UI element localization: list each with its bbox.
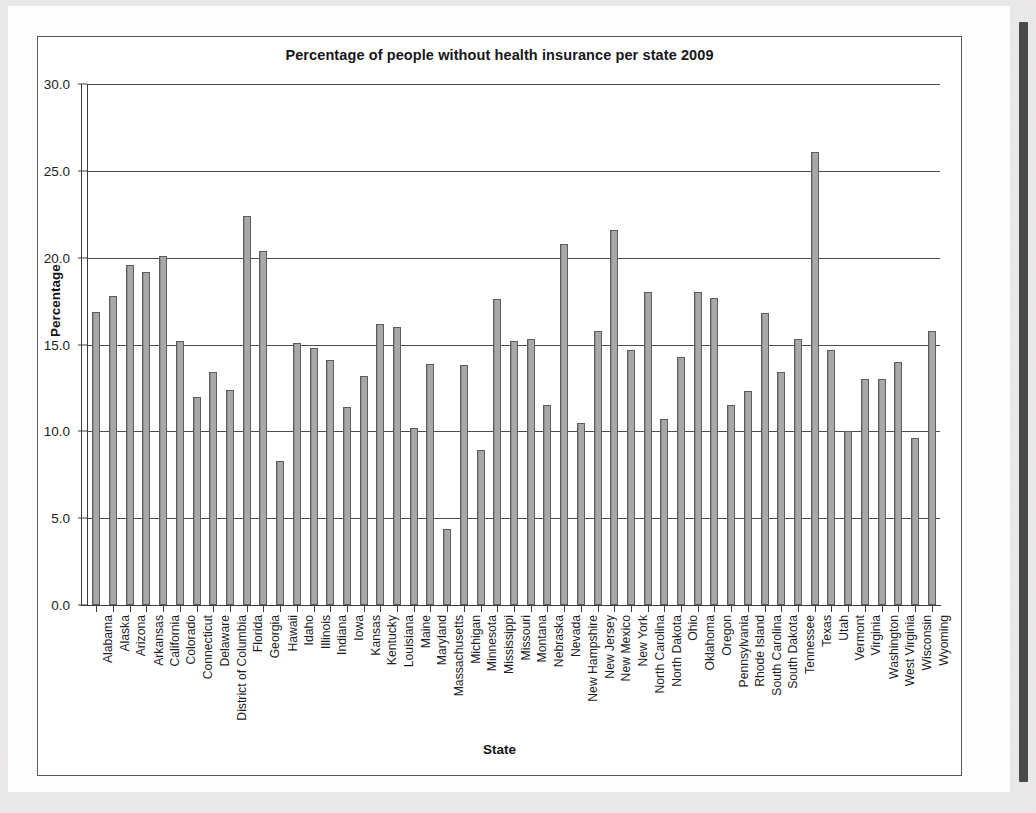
x-axis-tick [798, 605, 799, 612]
bar [343, 407, 351, 605]
x-axis-tick-label-text: Illinois [319, 615, 333, 649]
x-axis-tick [781, 605, 782, 612]
x-axis-tick-label-text: Arkansas [151, 615, 165, 666]
x-axis-tick [280, 605, 281, 612]
x-axis-tick [514, 605, 515, 612]
y-axis-tick [78, 605, 87, 606]
x-axis-tick-label-text: South Carolina [770, 615, 784, 696]
y-axis-label: Percentage [48, 264, 63, 337]
x-axis-tick-label-text: Wisconsin [920, 615, 934, 671]
x-axis-tick [113, 605, 114, 612]
bar [560, 244, 568, 605]
bar [426, 364, 434, 605]
bar [827, 350, 835, 605]
x-axis-tick [130, 605, 131, 612]
y-axis-tick-label: 10.0 [44, 424, 70, 439]
plot-area: 0.05.010.015.020.025.030.0AlabamaAlaskaA… [88, 84, 940, 605]
x-axis-tick-label-text: Arizona [135, 615, 149, 656]
x-axis-tick-label-text: Florida [252, 615, 266, 652]
bar [393, 327, 401, 605]
bar [911, 438, 919, 605]
x-axis-tick [748, 605, 749, 612]
bar [376, 324, 384, 605]
x-axis-tick-label-text: Mississippi [502, 615, 516, 674]
bar [878, 379, 886, 605]
bar [710, 298, 718, 605]
plot-inner [88, 84, 940, 605]
x-axis-tick-label-text: North Carolina [653, 615, 667, 694]
bar [694, 292, 702, 605]
bar [794, 339, 802, 605]
x-axis-tick [197, 605, 198, 612]
bar [293, 343, 301, 605]
x-axis-tick [564, 605, 565, 612]
x-axis-tick [848, 605, 849, 612]
x-axis-tick-label-text: Alabama [101, 615, 115, 663]
bar [92, 312, 100, 605]
x-axis-tick-label-text: Alaska [118, 615, 132, 652]
bar [928, 331, 936, 605]
y-axis-tick [78, 84, 87, 85]
x-axis-tick [765, 605, 766, 612]
bar [142, 272, 150, 605]
bar [777, 372, 785, 605]
bar [744, 391, 752, 605]
x-axis-tick-label-text: New Hampshire [586, 615, 600, 702]
x-axis-tick-label-text: Idaho [302, 615, 316, 646]
bar [259, 251, 267, 605]
x-axis-tick [481, 605, 482, 612]
x-axis-tick [898, 605, 899, 612]
bar [193, 397, 201, 605]
x-axis-tick-label-text: Kansas [369, 615, 383, 656]
bar [109, 296, 117, 605]
x-axis-tick-label-text: Oklahoma [703, 615, 717, 671]
x-axis-tick [581, 605, 582, 612]
x-axis-tick-label-text: Wyoming [937, 615, 951, 666]
x-axis-tick [547, 605, 548, 612]
x-axis-tick-label-text: Rhode Island [753, 615, 767, 687]
x-axis-tick [865, 605, 866, 612]
x-axis-tick [731, 605, 732, 612]
bar [176, 341, 184, 605]
x-axis-tick-label-text: Connecticut [202, 615, 216, 679]
bar [761, 313, 769, 605]
bar [527, 339, 535, 605]
x-axis-tick [146, 605, 147, 612]
x-axis-tick [163, 605, 164, 612]
x-axis-tick-label-text: Virginia [870, 615, 884, 655]
x-axis-tick-label-text: Michigan [469, 615, 483, 664]
bar [477, 450, 485, 605]
bar [310, 348, 318, 605]
y-axis-tick-label: 5.0 [51, 511, 70, 526]
x-axis-tick-label-text: Ohio [686, 615, 700, 641]
x-axis-tick-label-text: Louisiana [402, 615, 416, 667]
x-axis-tick [831, 605, 832, 612]
y-axis-tick-label: 25.0 [44, 163, 70, 178]
x-axis-tick [213, 605, 214, 612]
x-axis-tick [380, 605, 381, 612]
bar [443, 529, 451, 605]
y-axis-tick-label: 0.0 [51, 598, 70, 613]
x-axis-tick-label-text: Tennessee [803, 615, 817, 674]
y-axis-tick [78, 344, 87, 345]
x-axis-tick-label-text: Colorado [185, 615, 199, 664]
x-axis-tick [932, 605, 933, 612]
chart-title: Percentage of people without health insu… [38, 47, 961, 63]
bar [360, 376, 368, 605]
x-axis-tick [330, 605, 331, 612]
x-axis-tick-label-text: Minnesota [486, 615, 500, 671]
x-axis-tick [531, 605, 532, 612]
y-axis-tick-label: 20.0 [44, 250, 70, 265]
x-axis-tick-label-text: Nevada [569, 615, 583, 657]
bar [460, 365, 468, 605]
x-axis-tick-label-text: Indiana [335, 615, 349, 655]
x-axis-tick [230, 605, 231, 612]
vertical-scrollbar[interactable] [1019, 22, 1028, 782]
x-axis-tick-label-text: Delaware [218, 615, 232, 666]
bar [610, 230, 618, 605]
x-axis-tick-label-text: Missouri [519, 615, 533, 660]
x-axis-tick [598, 605, 599, 612]
x-axis-tick [247, 605, 248, 612]
y-axis-tick [78, 431, 87, 432]
bar [159, 256, 167, 605]
